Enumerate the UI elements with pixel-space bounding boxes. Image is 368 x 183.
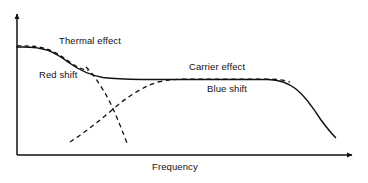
thermal-effect-curve — [17, 46, 88, 70]
frequency-response-figure: Thermal effect Red shift Carrier effect … — [0, 0, 368, 183]
total-response-curve — [17, 47, 336, 138]
axes-group — [17, 14, 352, 155]
plot-canvas — [0, 0, 368, 183]
curves-group — [17, 46, 336, 143]
